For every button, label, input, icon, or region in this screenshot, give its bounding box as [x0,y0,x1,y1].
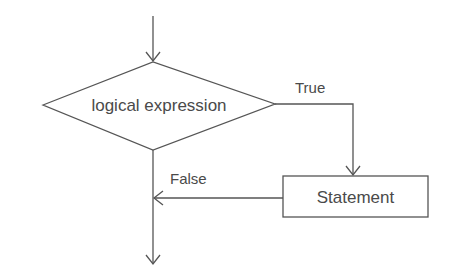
statement-label: Statement [317,188,395,207]
exit-arrow [146,150,160,264]
decision-node: logical expression [43,62,275,150]
flowchart-canvas: logical expression True Statement False [0,0,451,279]
false-label: False [170,170,207,187]
statement-node: Statement [283,176,428,217]
entry-arrow [146,16,160,61]
true-branch-arrow: True [275,79,360,175]
true-label: True [295,79,325,96]
false-branch-arrow: False [154,170,283,205]
decision-label: logical expression [91,96,226,115]
